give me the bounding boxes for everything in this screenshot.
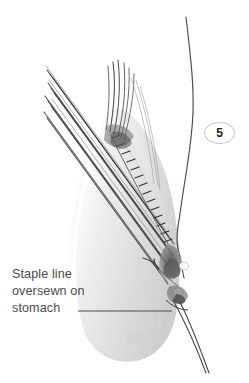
surgical-illustration	[0, 0, 249, 383]
caption-line-1: Staple line	[12, 266, 132, 283]
figure-step-badge: 5	[204, 122, 235, 144]
figure-step-number: 5	[216, 127, 223, 139]
suture-tails	[173, 300, 209, 373]
caption-line-3: stomach	[12, 300, 132, 317]
caption-line-2: oversewn on	[12, 283, 132, 300]
caption: Staple line oversewn on stomach	[12, 266, 132, 317]
suture-thread	[177, 17, 193, 248]
figure-root: Staple line oversewn on stomach 5	[0, 0, 249, 383]
